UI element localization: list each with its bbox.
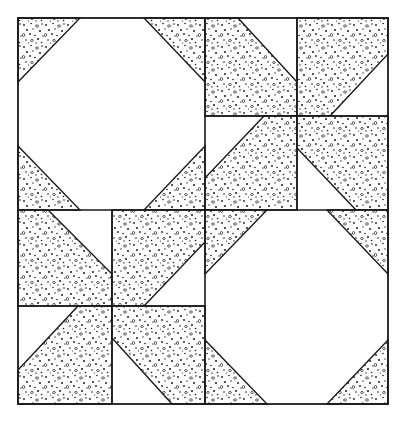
half-square-triangle	[112, 306, 205, 404]
quadrant-bottom-right-octagon	[205, 210, 388, 404]
quadrant-top-left-octagon	[18, 18, 205, 210]
quilt-block-drawing	[0, 0, 402, 422]
half-square-triangle	[18, 210, 112, 306]
corner-triangle	[18, 18, 80, 82]
corner-triangle	[18, 146, 80, 210]
corner-triangle	[144, 146, 205, 210]
half-square-triangle	[205, 116, 297, 210]
corner-triangle	[205, 340, 267, 404]
half-square-triangle	[205, 18, 297, 116]
corner-triangle	[205, 210, 267, 274]
corner-triangle	[144, 18, 205, 82]
half-square-triangle	[18, 306, 112, 404]
corner-triangle	[327, 210, 388, 274]
half-square-triangle	[297, 18, 388, 116]
half-square-triangle	[112, 210, 205, 306]
half-square-triangle	[297, 116, 388, 210]
corner-triangle	[327, 340, 388, 404]
